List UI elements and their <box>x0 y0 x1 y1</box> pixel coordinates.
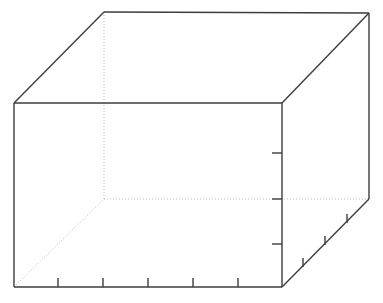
top-right-depth-edge <box>282 13 369 103</box>
top-left-depth-edge <box>14 12 104 103</box>
top-back-edge <box>104 12 369 13</box>
solid-edges-group <box>14 12 369 287</box>
hidden-edges-group <box>14 12 369 287</box>
bottom-left-depth-edge <box>14 199 104 287</box>
x-axis-tick-group <box>58 278 238 287</box>
z-axis-tick-group <box>272 153 282 244</box>
figure-canvas <box>0 0 383 303</box>
axes3d-wireframe <box>0 0 383 303</box>
